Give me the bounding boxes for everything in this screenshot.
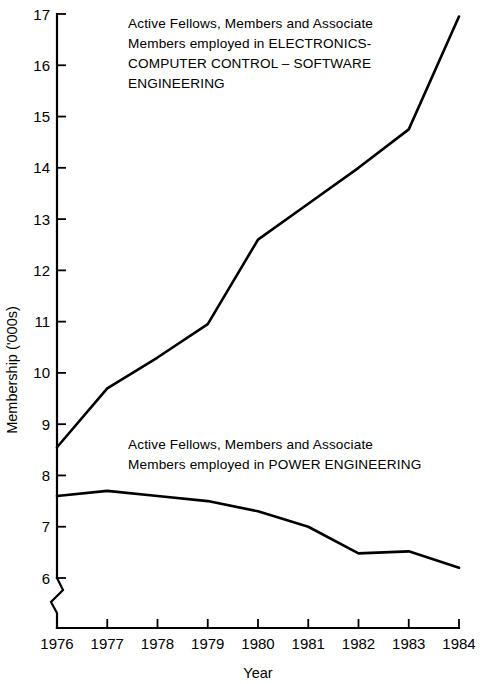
x-tick-group <box>57 619 459 628</box>
annotation-electronics-line-4: ENGINEERING <box>128 76 225 91</box>
annotation-electronics-line-2: Members employed in ELECTRONICS- <box>128 36 372 51</box>
annotation-power-line-1: Active Fellows, Members and Associate <box>128 437 373 452</box>
y-tick-label-10: 10 <box>33 364 50 381</box>
x-tick-label-1984: 1984 <box>442 635 475 652</box>
y-tick-label-13: 13 <box>33 211 50 228</box>
x-tick-label-group: 197619771978197919801981198219831984 <box>40 635 475 652</box>
y-tick-label-9: 9 <box>42 416 50 433</box>
y-tick-label-8: 8 <box>42 467 50 484</box>
x-tick-label-1979: 1979 <box>191 635 224 652</box>
annotation-electronics-line-3: COMPUTER CONTROL – SOFTWARE <box>128 56 371 71</box>
y-tick-label-14: 14 <box>33 159 50 176</box>
chart-container: 17161514131211109876 1976197719781979198… <box>0 0 490 684</box>
series-line-power <box>57 491 459 568</box>
y-tick-group <box>57 14 66 578</box>
y-tick-label-16: 16 <box>33 57 50 74</box>
y-tick-label-7: 7 <box>42 518 50 535</box>
x-tick-label-1980: 1980 <box>241 635 274 652</box>
x-tick-label-1981: 1981 <box>292 635 325 652</box>
x-tick-label-1977: 1977 <box>91 635 124 652</box>
x-axis-title: Year <box>243 665 272 681</box>
y-tick-label-15: 15 <box>33 108 50 125</box>
annotation-electronics-line-1: Active Fellows, Members and Associate <box>128 16 373 31</box>
x-tick-label-1983: 1983 <box>392 635 425 652</box>
series-line-electronics <box>57 17 459 448</box>
annotation-electronics: Active Fellows, Members and Associate Me… <box>128 16 373 91</box>
x-tick-label-1978: 1978 <box>141 635 174 652</box>
y-tick-label-group: 17161514131211109876 <box>33 6 50 587</box>
y-axis-title: Membership ('000s) <box>4 306 20 434</box>
line-chart: 17161514131211109876 1976197719781979198… <box>0 0 490 684</box>
x-tick-label-1982: 1982 <box>342 635 375 652</box>
y-tick-label-6: 6 <box>42 570 50 587</box>
annotation-power: Active Fellows, Members and Associate Me… <box>128 437 421 472</box>
y-tick-label-17: 17 <box>33 6 50 23</box>
y-tick-label-12: 12 <box>33 262 50 279</box>
annotation-power-line-2: Members employed in POWER ENGINEERING <box>128 457 421 472</box>
x-tick-label-1976: 1976 <box>40 635 73 652</box>
y-tick-label-11: 11 <box>34 313 50 330</box>
